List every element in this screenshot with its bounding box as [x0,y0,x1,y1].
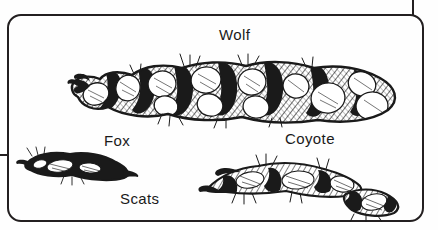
wolf-scat-drawing [66,50,406,130]
scat-identification-plate: Wolf Fox Coyote Scats [0,0,438,230]
label-coyote: Coyote [285,130,335,147]
leader-line-left [0,154,9,156]
label-wolf: Wolf [219,26,250,43]
label-fox: Fox [104,132,130,149]
fox-scat-drawing [14,144,144,186]
coyote-scat-drawing [196,146,411,222]
plate-caption: Scats [120,190,160,207]
leader-line-top [412,0,414,15]
